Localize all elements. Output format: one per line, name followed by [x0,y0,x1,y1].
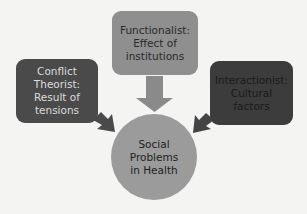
center-text-line: Problems [130,151,178,164]
node-text-line: Cultural [215,87,288,100]
node-text-line: Effect of [120,37,190,50]
node-text-line: tensions [34,104,80,117]
functionalist-node: Functionalist: Effect of institutions [112,11,198,75]
node-text-line: factors [215,100,288,113]
arrow-down-icon [136,76,173,112]
diagram-canvas: Functionalist: Effect of institutions Co… [0,0,307,214]
node-text-line: Functionalist: [120,24,190,37]
interactionist-node: Interactionist: Cultural factors [210,61,293,125]
node-text-line: Theorist: [34,78,80,91]
node-text-line: institutions [120,50,190,63]
node-text-line: Interactionist: [215,74,288,87]
center-node-social-problems: Social Problems in Health [111,114,197,200]
conflict-theorist-node: Conflict Theorist: Result of tensions [16,59,98,123]
center-text-line: in Health [130,164,178,177]
node-text-line: Conflict [34,65,80,78]
node-text-line: Result of [34,91,80,104]
center-text-line: Social [130,138,178,151]
